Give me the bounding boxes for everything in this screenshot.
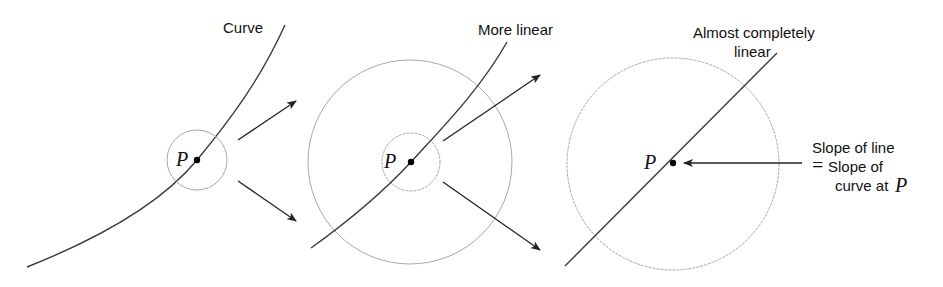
slope-annotation-equals: = <box>812 154 823 176</box>
point-p-dot <box>408 159 414 165</box>
panel-almost-linear: P Almost completely linear Slope of line… <box>565 24 907 270</box>
point-p-label: P <box>383 150 396 172</box>
zoom-arrow-lower-2 <box>443 182 540 250</box>
point-p-dot <box>670 160 676 166</box>
almost-linear-line <box>565 53 777 266</box>
curve-line <box>27 25 285 267</box>
slope-annotation-var-p: P <box>894 174 907 196</box>
slope-annotation-line2: Slope of <box>828 158 884 175</box>
slope-annotation-line1: Slope of line <box>812 139 895 156</box>
zoom-arrow-upper-2 <box>443 75 540 141</box>
zoom-arrow-upper-1 <box>238 101 296 140</box>
point-p-label: P <box>175 148 188 170</box>
point-p-label: P <box>643 151 656 173</box>
more-linear-curve <box>311 42 507 248</box>
zoom-arrow-lower-1 <box>238 181 296 221</box>
almost-linear-label-1: Almost completely <box>693 24 815 41</box>
almost-linear-label-2: linear <box>734 43 771 60</box>
more-linear-label: More linear <box>478 21 553 38</box>
panel-more-linear: P More linear <box>308 21 553 264</box>
zoom-in-linearity-diagram: P Curve P More linear P Almost completel… <box>0 0 943 287</box>
curve-label: Curve <box>223 19 263 36</box>
slope-annotation-line3: curve at <box>835 177 889 194</box>
panel-curve: P Curve <box>27 19 296 267</box>
point-p-dot <box>194 157 200 163</box>
